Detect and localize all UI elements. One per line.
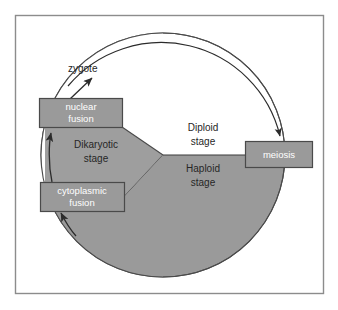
box-cytoplasmic-fusion-line1: cytoplasmic	[57, 185, 107, 196]
label-zygote: zygote	[68, 63, 98, 74]
box-cytoplasmic-fusion[interactable]: cytoplasmic fusion	[41, 183, 125, 212]
label-haploid-stage-line2: stage	[191, 177, 216, 188]
box-nuclear-fusion[interactable]: nuclear fusion	[40, 99, 123, 128]
box-nuclear-fusion-line1: nuclear	[65, 101, 96, 112]
label-dikaryotic-stage-line2: stage	[84, 153, 109, 164]
label-diploid-stage-line2: stage	[191, 136, 216, 147]
box-nuclear-fusion-line2: fusion	[68, 113, 93, 124]
life-cycle-diagram: nuclear fusion cytoplasmic fusion meiosi…	[0, 0, 338, 310]
box-cytoplasmic-fusion-line2: fusion	[69, 197, 94, 208]
label-diploid-stage-line1: Diploid	[188, 122, 219, 133]
box-meiosis-label: meiosis	[263, 149, 295, 160]
box-meiosis[interactable]: meiosis	[246, 142, 313, 168]
diagram-root: nuclear fusion cytoplasmic fusion meiosi…	[0, 0, 338, 310]
label-haploid-stage-line1: Haploid	[186, 163, 220, 174]
label-dikaryotic-stage-line1: Dikaryotic	[74, 139, 118, 150]
